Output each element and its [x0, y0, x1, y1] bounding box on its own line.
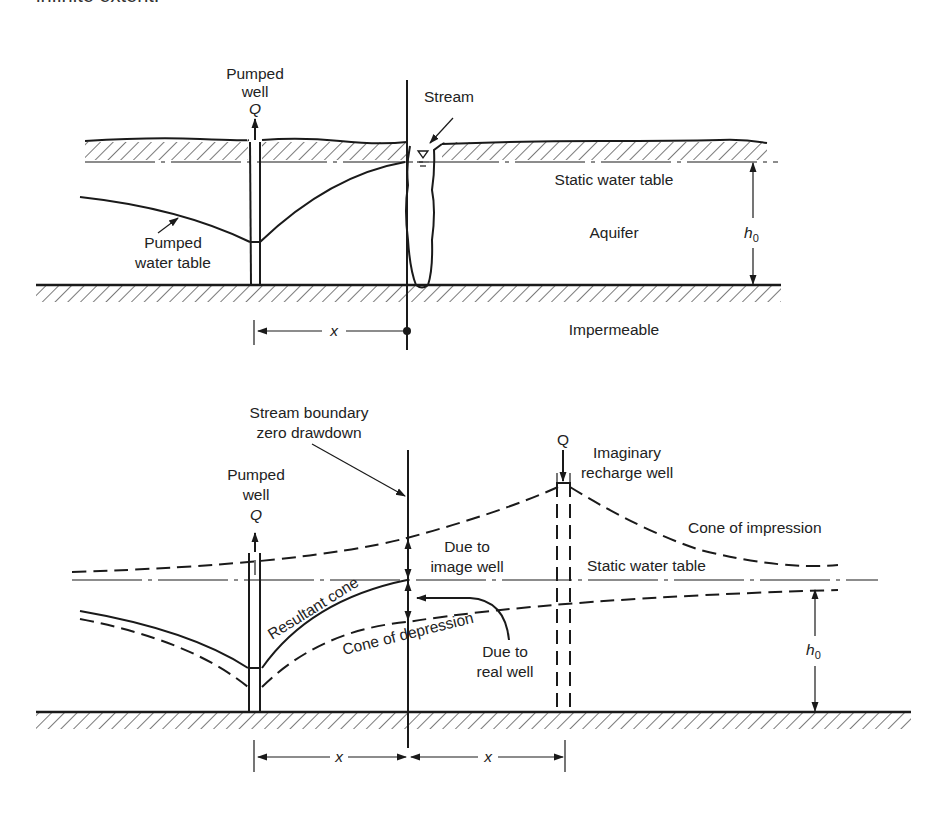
impermeable-label: Impermeable [569, 321, 659, 338]
stream-boundary-pointer [312, 444, 405, 496]
image-discharge-q-label: Q [557, 431, 569, 448]
top-diagram: Pumped well Q Stream Static water table … [36, 65, 781, 350]
imaginary-recharge-well [556, 450, 571, 712]
pumped-well [250, 119, 260, 285]
distance-x-left-label: x [334, 748, 344, 765]
aquifer-label: Aquifer [589, 224, 638, 241]
image-well-theory-diagram: infinite extent. [0, 0, 943, 816]
discharge-q-label: Q [249, 100, 261, 117]
thickness-label: h0 [744, 224, 759, 244]
bottom-diagram: Stream boundary zero drawdown Pumped wel… [36, 404, 911, 772]
thickness-label-bottom: h0 [806, 641, 821, 661]
distance-x-right-label: x [483, 748, 493, 765]
cone-of-impression-label: Cone of impression [688, 519, 822, 536]
resultant-cone-curve-left [80, 611, 248, 668]
stream-boundary-label: Stream boundary [250, 404, 369, 421]
pumped-discharge-q-label: Q [250, 506, 262, 523]
stream-pointer-arrow [430, 118, 453, 143]
due-to-real-well-label-2: real well [477, 663, 534, 680]
due-to-real-well-label: Due to [482, 643, 528, 660]
pumped-well-label-bottom-2: well [242, 486, 270, 503]
resultant-cone-label: Resultant cone [265, 573, 362, 642]
imaginary-recharge-well-label: Imaginary [593, 444, 661, 461]
ground-surface [85, 138, 767, 160]
distance-dimension-bottom [254, 740, 565, 772]
stream-boundary-label-2: zero drawdown [256, 424, 361, 441]
impermeable-base-bottom [36, 712, 911, 729]
pumped-water-table-curve-right [260, 162, 405, 242]
pumped-water-table-label-2: water table [134, 254, 211, 271]
impermeable-base [36, 285, 781, 302]
pumped-well-label-bottom: Pumped [227, 466, 285, 483]
pumped-well-label-2: well [241, 83, 269, 100]
due-to-image-well-label-2: image well [430, 558, 503, 575]
distance-x-label: x [329, 322, 339, 339]
water-level-symbol [417, 151, 429, 166]
pumped-well-label: Pumped [226, 65, 284, 82]
pumped-water-table-label: Pumped [144, 234, 202, 251]
imaginary-recharge-well-label-2: recharge well [581, 464, 673, 481]
pumped-well-bottom [249, 533, 260, 712]
pumped-water-table-pointer [158, 218, 178, 233]
static-water-table-label: Static water table [555, 171, 674, 188]
static-water-table-label-bottom: Static water table [587, 557, 706, 574]
stream-label: Stream [424, 88, 474, 105]
clipped-caption: infinite extent. [36, 0, 159, 6]
due-to-image-well-label: Due to [444, 538, 490, 555]
